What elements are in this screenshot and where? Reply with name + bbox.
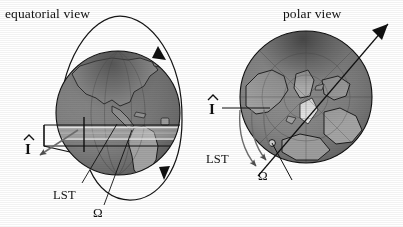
lst-label-equatorial: LST (53, 188, 76, 203)
lst-label-polar: LST (206, 152, 229, 167)
panel-title-equatorial: equatorial view (5, 6, 90, 22)
omega-label-polar: Ω (258, 168, 268, 184)
omega-label-equatorial: Ω (93, 205, 103, 221)
i-hat-label-equatorial: I (25, 141, 31, 158)
i-hat-label-polar: I (209, 101, 215, 118)
earth-globe-polar (240, 31, 372, 163)
panel-title-polar: polar view (283, 6, 341, 22)
